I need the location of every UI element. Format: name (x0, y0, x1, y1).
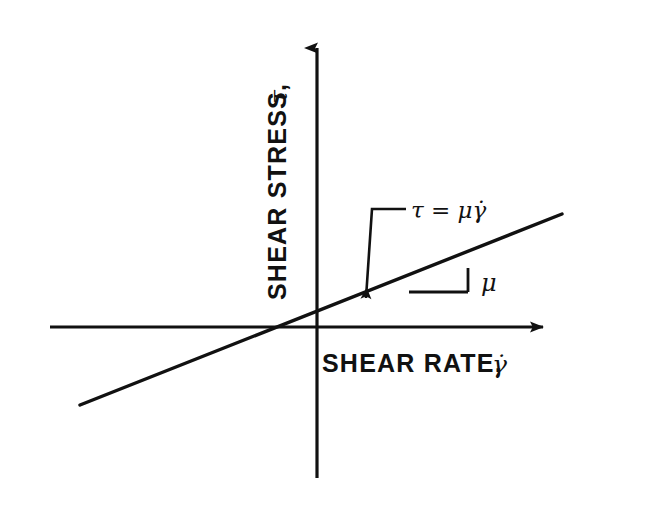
x-axis-label-text: SHEAR RATE, (322, 349, 503, 377)
y-axis-label-text: SHEAR STRESS, (263, 83, 291, 300)
slope-label-group: μ (481, 269, 497, 297)
equation-label: τ = μγ̇ (411, 197, 487, 223)
x-axis-label-symbol-gamma-dot: γ̇ (492, 350, 507, 379)
x-axis-label-group: SHEAR RATE, γ̇ (322, 349, 507, 379)
y-axis-label-group: SHEAR STRESS, τ (263, 83, 293, 300)
slope-label-mu: μ (481, 269, 497, 297)
equation-annotation-group: τ = μγ̇ (411, 197, 487, 223)
figure-canvas: SHEAR STRESS, τ SHEAR RATE, γ̇ τ = μγ̇ μ (0, 0, 659, 511)
shear-stress-shear-rate-diagram: SHEAR STRESS, τ SHEAR RATE, γ̇ τ = μγ̇ μ (0, 0, 659, 511)
y-axis-label-symbol-tau: τ (264, 89, 293, 104)
